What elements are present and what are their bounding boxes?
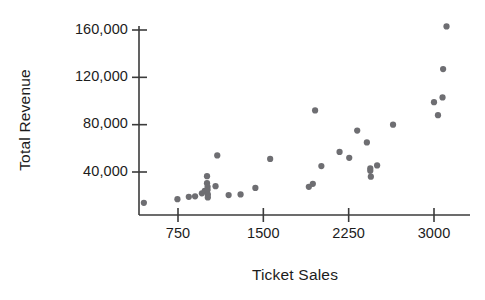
data-point — [204, 173, 210, 179]
x-tick-label-2250: 2250 — [332, 225, 365, 241]
plot-canvas: 40,00080,000120,000160,000 7501500225030… — [0, 0, 485, 300]
data-point — [390, 122, 396, 128]
data-point — [174, 196, 180, 202]
y-axis-title: Total Revenue — [16, 69, 33, 171]
data-point — [237, 191, 243, 197]
data-point — [439, 94, 445, 100]
data-point — [364, 139, 370, 145]
x-tick-label-750: 750 — [166, 225, 191, 241]
y-tick-label-160000: 160,000 — [75, 21, 128, 37]
data-point — [354, 127, 360, 133]
x-tick-labels: 750150022503000 — [166, 225, 451, 241]
axes-group — [139, 26, 470, 215]
data-point — [141, 200, 147, 206]
data-point — [186, 194, 192, 200]
data-point — [310, 181, 316, 187]
data-point — [212, 183, 218, 189]
data-point — [318, 163, 324, 169]
x-tick-label-1500: 1500 — [247, 225, 280, 241]
data-point — [226, 192, 232, 198]
data-point — [346, 155, 352, 161]
data-point — [336, 149, 342, 155]
data-point — [367, 168, 373, 174]
data-point — [267, 156, 273, 162]
y-tick-labels: 40,00080,000120,000160,000 — [75, 21, 128, 179]
y-tick-label-120000: 120,000 — [75, 68, 128, 84]
x-axis-title: Ticket Sales — [252, 266, 338, 283]
data-point — [443, 23, 449, 29]
y-tick-label-80000: 80,000 — [83, 115, 128, 131]
data-point — [252, 185, 258, 191]
data-point — [205, 194, 211, 200]
data-point — [435, 112, 441, 118]
data-point — [368, 174, 374, 180]
y-tick-label-40000: 40,000 — [83, 163, 128, 179]
data-point — [192, 193, 198, 199]
x-tick-label-3000: 3000 — [418, 225, 451, 241]
data-point — [312, 107, 318, 113]
data-point — [374, 162, 380, 168]
data-point — [440, 66, 446, 72]
scatter-plot-figure: 40,00080,000120,000160,000 7501500225030… — [0, 0, 485, 300]
data-point — [214, 152, 220, 158]
data-points-group — [141, 23, 450, 206]
data-point — [431, 99, 437, 105]
